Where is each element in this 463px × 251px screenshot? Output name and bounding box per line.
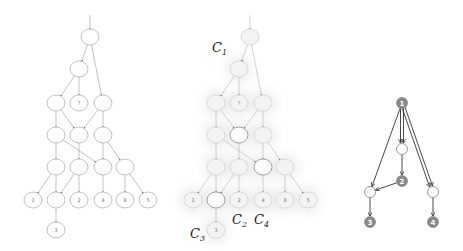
cluster-label-c4: C4	[254, 212, 269, 229]
graph-edge	[61, 76, 75, 96]
graph-edge	[92, 45, 102, 95]
graph-edge	[61, 110, 74, 129]
graph-edge	[38, 174, 52, 193]
graph-node	[81, 29, 99, 45]
node-label: 8	[283, 197, 286, 203]
node-label: 4	[431, 219, 436, 227]
node-label: ?	[78, 100, 81, 106]
node-label: 3	[54, 227, 57, 233]
graph-node	[116, 159, 134, 175]
graph-node	[207, 192, 225, 208]
condensed-edge	[376, 183, 397, 190]
graph-node	[254, 159, 272, 175]
graph-node	[207, 127, 225, 143]
node-label: 3	[368, 219, 373, 227]
right-graph-condensed: 1234	[365, 98, 439, 228]
graph-edge	[108, 142, 121, 160]
graph-node	[70, 61, 88, 77]
graph-node	[207, 159, 225, 175]
node-label: 1	[31, 197, 34, 203]
graph-edge	[252, 45, 262, 95]
node-label: 4	[261, 197, 264, 203]
graph-edge	[82, 45, 88, 62]
node-label: ?	[238, 100, 241, 106]
graph-node	[47, 159, 65, 175]
graph-node	[47, 127, 65, 143]
graph-node	[254, 127, 272, 143]
condensed-edge	[372, 108, 400, 186]
graph-node	[47, 95, 65, 111]
node-label: 2	[237, 197, 240, 203]
graph-node	[70, 159, 88, 175]
cluster-shadow	[181, 57, 320, 242]
node-label: 3	[214, 227, 217, 233]
graph-node	[254, 95, 272, 111]
middle-graph-clusters: ?124853C1C2C4C3	[181, 15, 320, 243]
graph-node	[70, 127, 88, 143]
node-label: 2	[77, 197, 80, 203]
graph-node	[94, 127, 112, 143]
graph-node	[230, 127, 248, 143]
node-label: 2	[400, 178, 405, 186]
graph-node	[47, 192, 65, 208]
intermediate-node	[365, 187, 376, 198]
condensed-edge	[405, 108, 432, 186]
cluster-label-c3: C3	[190, 226, 205, 243]
cluster-label-c1: C1	[212, 40, 227, 57]
node-label: 1	[191, 197, 194, 203]
node-label: 5	[146, 197, 149, 203]
graph-node	[241, 29, 259, 45]
diagram-canvas: ?124853 ?124853C1C2C4C3 1234	[0, 0, 463, 251]
graph-node	[276, 159, 294, 175]
graph-node	[230, 61, 248, 77]
cluster-label-c2: C2	[232, 212, 247, 229]
graph-node	[230, 159, 248, 175]
graph-edge	[61, 174, 75, 193]
intermediate-node	[428, 187, 439, 198]
graph-node	[207, 95, 225, 111]
node-label: 5	[306, 197, 309, 203]
graph-node	[94, 95, 112, 111]
node-label: 1	[400, 100, 405, 108]
left-graph: ?124853	[24, 15, 157, 238]
graph-node	[94, 159, 112, 175]
graph-edge	[130, 174, 144, 193]
node-label: 8	[123, 197, 126, 203]
node-label: 4	[101, 197, 104, 203]
graph-edge	[84, 110, 98, 129]
intermediate-node	[397, 144, 408, 155]
